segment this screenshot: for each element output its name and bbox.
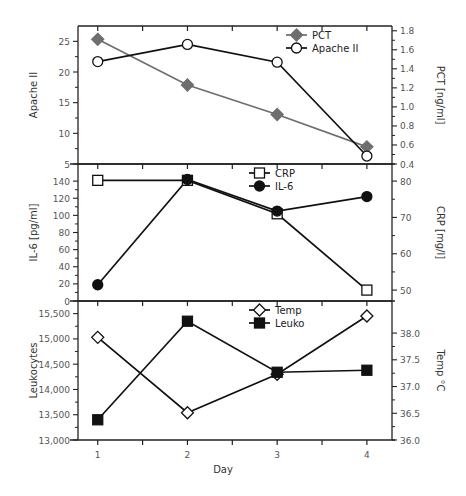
panel-middle-left-tick-label: 80 bbox=[59, 228, 71, 238]
data-point-crp bbox=[93, 175, 103, 185]
panel-top-left-tick-label: 10 bbox=[59, 129, 71, 139]
legend-marker-il-6 bbox=[255, 181, 265, 191]
panel-bottom-right-axis-title: Temp °C bbox=[435, 349, 446, 392]
panel-top-right-tick-label: 1.4 bbox=[400, 64, 415, 74]
panel-middle-right-tick-label: 70 bbox=[400, 213, 412, 223]
legend-marker-temp bbox=[254, 304, 266, 316]
data-point-pct bbox=[92, 33, 104, 45]
panel-bottom-left-tick-label: 13,000 bbox=[39, 436, 71, 446]
legend-marker-pct bbox=[291, 29, 303, 41]
data-point-il-6 bbox=[182, 174, 192, 184]
panel-top-left-axis-title: Apache II bbox=[28, 72, 39, 118]
panel-bottom-right-tick-label: 36.5 bbox=[400, 409, 420, 419]
panel-top-right-tick-label: 0.4 bbox=[400, 160, 415, 170]
legend-label-leuko: Leuko bbox=[275, 318, 304, 329]
data-point-crp bbox=[362, 285, 372, 295]
panel-middle-right-tick-label: 80 bbox=[400, 177, 412, 187]
legend-label-crp: CRP bbox=[275, 168, 295, 179]
panel-bottom-left-tick-label: 14,000 bbox=[39, 385, 71, 395]
panel-top-right-axis-title: PCT [ng/ml] bbox=[435, 66, 446, 125]
panel-top-right-tick-label: 1.8 bbox=[400, 26, 415, 36]
data-point-leuko bbox=[362, 365, 372, 375]
data-point-il-6 bbox=[362, 192, 372, 202]
legend-marker-leuko bbox=[255, 318, 265, 328]
multi-panel-chart: 5101520250.40.60.81.01.21.41.61.8Apache … bbox=[0, 0, 466, 496]
data-point-leuko bbox=[93, 415, 103, 425]
data-point-pct bbox=[181, 79, 193, 91]
panel-middle-left-tick-label: 0 bbox=[64, 297, 70, 307]
x-axis-title: Day bbox=[213, 464, 233, 475]
panel-top-left-tick-label: 20 bbox=[59, 68, 71, 78]
panel-top-left-tick-label: 5 bbox=[64, 160, 70, 170]
panel-middle-left-tick-label: 140 bbox=[53, 177, 70, 187]
legend-marker-crp bbox=[255, 168, 265, 178]
panel-bottom-right-tick-label: 37.0 bbox=[400, 382, 420, 392]
data-point-il-6 bbox=[272, 206, 282, 216]
panel-top-right-tick-label: 1.6 bbox=[400, 45, 415, 55]
panel-middle-left-axis-title: IL-6 [pg/ml] bbox=[28, 203, 39, 261]
panel-top-right-tick-label: 1.2 bbox=[400, 83, 414, 93]
panel-top-left-tick-label: 25 bbox=[59, 37, 70, 47]
panel-top-right-tick-label: 1.0 bbox=[400, 102, 415, 112]
data-point-apache-ii bbox=[272, 57, 282, 67]
series-line-pct bbox=[98, 39, 367, 147]
panel-middle-right-tick-label: 60 bbox=[400, 249, 412, 259]
panel-bottom-right-tick-label: 36.0 bbox=[400, 436, 420, 446]
panel-bottom-right-tick-label: 37.5 bbox=[400, 355, 420, 365]
data-point-temp bbox=[361, 310, 373, 322]
data-point-leuko bbox=[272, 367, 282, 377]
panel-top-right-tick-label: 0.6 bbox=[400, 140, 415, 150]
data-point-leuko bbox=[182, 316, 192, 326]
panel-middle-right-tick-label: 50 bbox=[400, 286, 412, 296]
x-axis-tick-label: 3 bbox=[274, 450, 280, 460]
legend-label-temp: Temp bbox=[274, 305, 302, 316]
panel-bottom-left-tick-label: 15,500 bbox=[39, 309, 71, 319]
panel-bottom-left-axis-title: Leukocytes bbox=[28, 342, 39, 398]
panel-bottom-right-tick-label: 38.0 bbox=[400, 329, 420, 339]
panel-bottom-left-tick-label: 15,000 bbox=[39, 334, 71, 344]
data-point-apache-ii bbox=[93, 57, 103, 67]
panel-middle-left-tick-label: 120 bbox=[53, 194, 70, 204]
panel-middle-left-tick-label: 60 bbox=[59, 245, 71, 255]
panel-bottom-left-tick-label: 13,500 bbox=[39, 410, 71, 420]
x-axis-tick-label: 2 bbox=[185, 450, 191, 460]
legend-label-apache-ii: Apache II bbox=[312, 43, 358, 54]
data-point-pct bbox=[271, 109, 283, 121]
legend-label-il-6: IL-6 bbox=[275, 181, 293, 192]
legend-marker-apache-ii bbox=[292, 43, 302, 53]
x-axis-tick-label: 4 bbox=[364, 450, 370, 460]
panel-top-right-tick-label: 0.8 bbox=[400, 121, 415, 131]
panel-top-left-tick-label: 15 bbox=[59, 98, 70, 108]
data-point-il-6 bbox=[93, 280, 103, 290]
panel-middle-left-tick-label: 20 bbox=[59, 279, 71, 289]
legend-label-pct: PCT bbox=[312, 30, 332, 41]
series-line-crp bbox=[98, 180, 367, 290]
series-line-temp bbox=[98, 316, 367, 413]
panel-middle-left-tick-label: 100 bbox=[53, 211, 70, 221]
data-point-apache-ii bbox=[182, 39, 192, 49]
x-axis-tick-label: 1 bbox=[95, 450, 101, 460]
data-point-apache-ii bbox=[362, 151, 372, 161]
panel-bottom-left-tick-label: 14,500 bbox=[39, 360, 71, 370]
series-line-il-6 bbox=[98, 179, 367, 284]
panel-middle-right-axis-title: CRP [mg/l] bbox=[435, 206, 446, 259]
panel-middle-left-tick-label: 40 bbox=[59, 262, 71, 272]
